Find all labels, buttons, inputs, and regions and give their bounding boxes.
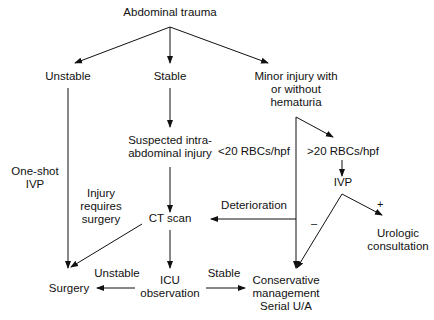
node-icu-observation: ICU observation	[140, 274, 199, 300]
node-gt20-rbcs: >20 RBCs/hpf	[307, 145, 379, 158]
node-suspected-line1: Suspected intra-	[128, 134, 212, 147]
node-icu-line2: observation	[140, 287, 199, 300]
edge-root-minor	[170, 27, 268, 63]
edge-ct-surgery	[71, 224, 142, 267]
edge-minor-gt20	[296, 117, 333, 137]
label-deterioration: Deterioration	[221, 199, 287, 212]
label-icu-stable: Stable	[208, 267, 241, 280]
label-minus: –	[311, 217, 317, 229]
node-conservative-line1: Conservative	[252, 274, 319, 287]
node-minor-line1: Minor injury with	[254, 70, 337, 83]
node-urologic-line1: Urologic	[367, 227, 428, 240]
node-icu-line1: ICU	[140, 274, 199, 287]
label-injury-requires-surgery: Injury requires surgery	[80, 187, 122, 226]
node-surgery: Surgery	[49, 282, 89, 295]
label-injury-line1: Injury	[80, 187, 122, 200]
node-ct-scan: CT scan	[149, 212, 192, 225]
node-conservative-line3: Serial U/A	[252, 300, 319, 313]
node-minor-injury: Minor injury with or without hematuria	[254, 70, 337, 109]
label-injury-line2: requires	[80, 200, 122, 213]
label-plus: +	[377, 198, 383, 210]
node-minor-line3: hematuria	[254, 96, 337, 109]
node-urologic-line2: consultation	[367, 240, 428, 253]
node-conservative-management: Conservative management Serial U/A	[252, 274, 319, 313]
node-stable: Stable	[154, 70, 187, 83]
node-urologic-consultation: Urologic consultation	[367, 227, 428, 253]
node-suspected-line2: abdominal injury	[128, 147, 212, 160]
label-one-shot-line2: IVP	[11, 178, 58, 191]
label-lt20-rbcs: <20 RBCs/hpf	[218, 145, 290, 158]
node-minor-line2: or without	[254, 83, 337, 96]
node-abdominal-trauma: Abdominal trauma	[123, 6, 216, 19]
node-ivp: IVP	[334, 176, 353, 189]
label-one-shot-line1: One-shot	[11, 165, 58, 178]
node-conservative-line2: management	[252, 287, 319, 300]
node-unstable: Unstable	[45, 70, 90, 83]
node-suspected-injury: Suspected intra- abdominal injury	[128, 134, 212, 160]
edge-ivp-conservative	[297, 194, 342, 268]
label-injury-line3: surgery	[80, 213, 122, 226]
edge-ivp-urologic	[342, 194, 382, 215]
label-one-shot-ivp: One-shot IVP	[11, 165, 58, 191]
edge-root-unstable	[75, 27, 170, 63]
label-icu-unstable: Unstable	[94, 267, 139, 280]
